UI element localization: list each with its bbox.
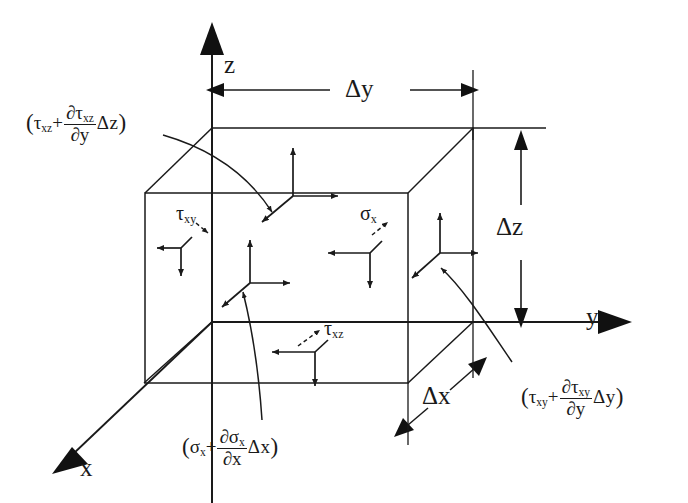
dimension-delta-y: [206, 70, 479, 140]
leader-tau-xz: [298, 330, 320, 346]
numerator-partial: ∂σ: [219, 426, 239, 447]
stress-label-sigma-x: σx: [360, 203, 377, 225]
stress-triad-top: [262, 148, 338, 222]
axis-label-y: y: [586, 304, 599, 329]
numerator-partial: ∂τ: [66, 102, 83, 123]
tau-xy-subscript: xy: [184, 212, 196, 226]
expr-delta: Δx: [248, 436, 271, 457]
leader-tau-xz-dz: [163, 135, 272, 212]
tau-xz-symbol: τ: [324, 317, 332, 339]
dimension-label-delta-x: Δx: [422, 383, 451, 408]
cube-wireframe: [144, 128, 473, 383]
tau-xy-symbol: τ: [176, 202, 184, 224]
close-paren: ): [616, 384, 624, 409]
open-paren: (: [26, 110, 34, 135]
stress-triad-front-center: [222, 240, 290, 307]
close-paren: ): [271, 434, 279, 459]
expr-fraction: ∂τxy ∂y: [560, 377, 593, 419]
fraction-numerator: ∂τxz: [64, 103, 96, 125]
expression-tau-xz-delta-z: (τxz+ ∂τxz ∂y Δz): [26, 104, 126, 146]
expr-delta: Δy: [593, 386, 616, 407]
axis-label-x: x: [80, 455, 93, 480]
expr-delta: Δz: [97, 112, 119, 133]
axis-label-z: z: [224, 52, 235, 77]
expr-plus: +: [206, 436, 217, 457]
stress-triad-left: [157, 237, 192, 276]
close-paren: ): [118, 110, 126, 135]
open-paren: (: [182, 434, 190, 459]
open-paren: (: [521, 384, 529, 409]
dimension-label-delta-y: Δy: [345, 76, 374, 101]
numerator-partial: ∂τ: [562, 376, 579, 397]
stress-triad-right-inner: [328, 241, 382, 288]
fraction-denominator: ∂y: [64, 125, 96, 145]
dimension-label-delta-z: Δz: [496, 214, 523, 239]
expr-base-subscript: xz: [41, 122, 52, 134]
numerator-subscript: x: [239, 436, 245, 448]
stress-triad-bottom: [272, 340, 328, 386]
stress-label-tau-xz: τxz: [324, 318, 344, 340]
leader-tau-xy-dy: [441, 268, 512, 362]
fraction-denominator: ∂x: [217, 449, 246, 469]
numerator-subscript: xz: [83, 112, 94, 124]
diagram-canvas: [0, 0, 688, 503]
expr-base-subscript: xy: [536, 396, 548, 408]
stress-label-tau-xy: τxy: [176, 203, 196, 225]
expr-plus: +: [52, 112, 63, 133]
expression-tau-xy-delta-y: (τxy+ ∂τxy ∂y Δy): [521, 378, 623, 420]
sigma-x-subscript: x: [371, 212, 377, 226]
stress-triad-back-right: [412, 213, 478, 278]
numerator-subscript: xy: [579, 386, 591, 398]
tau-xz-subscript: xz: [332, 327, 344, 341]
fraction-numerator: ∂σx: [217, 427, 246, 449]
leader-sigma-x-dx: [243, 292, 262, 420]
leader-tau-xy: [196, 223, 208, 233]
fraction-denominator: ∂y: [560, 399, 593, 419]
expr-plus: +: [548, 386, 559, 407]
expr-fraction: ∂σx ∂x: [217, 427, 246, 469]
sigma-x-symbol: σ: [360, 202, 371, 224]
expr-base-symbol: σ: [190, 436, 200, 457]
expression-sigma-x-delta-x: (σx+ ∂σx ∂x Δx): [182, 428, 278, 470]
stress-element-figure: z y x Δy Δz Δx τxy σx τxz (τxz+ ∂τxz ∂y …: [0, 0, 688, 503]
expr-fraction: ∂τxz ∂y: [64, 103, 96, 145]
fraction-numerator: ∂τxy: [560, 377, 593, 399]
